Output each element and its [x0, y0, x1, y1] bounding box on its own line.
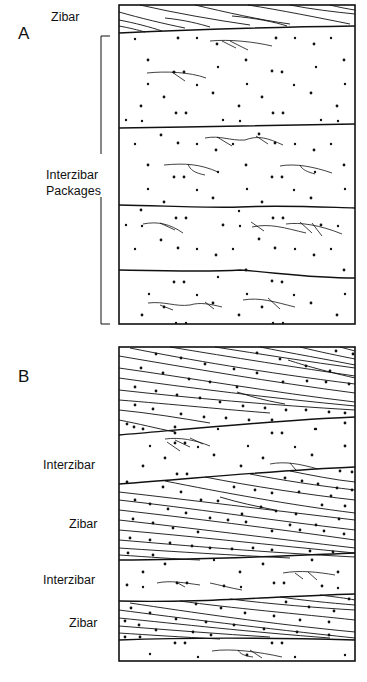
panel-a-boundary-3 [119, 270, 355, 278]
panel-a-grain-dots [125, 37, 346, 325]
panel-b-boundary-5 [119, 638, 355, 640]
panel-b [119, 347, 355, 661]
panel-b-boundary-3 [119, 553, 355, 560]
panel-b-zibar-2-crossbeds [119, 471, 355, 560]
panel-b-boundary-1 [119, 417, 355, 435]
panel-b-boundary-2 [119, 467, 355, 484]
panel-a-boundary-1 [119, 124, 355, 128]
panel-a-zibar-base [119, 26, 355, 33]
panel-b-grain-dots [124, 350, 355, 659]
panel-a [101, 5, 355, 324]
stratigraphy-diagram [0, 0, 367, 682]
interzibar-bracket [101, 36, 110, 324]
panel-a-boundary-2 [119, 205, 355, 208]
